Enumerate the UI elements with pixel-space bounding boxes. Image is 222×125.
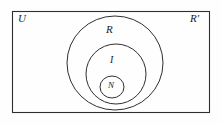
euler-diagram-figure: U R′ R I N [0, 0, 222, 125]
integers-circle [86, 44, 146, 104]
natural-set-label: N [108, 81, 114, 90]
universal-set-label: U [18, 13, 26, 24]
integer-set-label: I [110, 55, 113, 65]
irrational-set-label: R′ [190, 13, 199, 24]
real-set-label: R [106, 24, 113, 35]
real-numbers-circle [67, 16, 163, 110]
